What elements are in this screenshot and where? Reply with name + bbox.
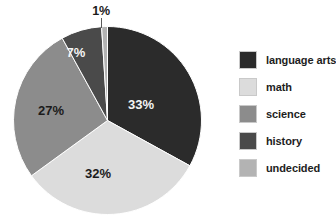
pie-slice-value-math: 32% bbox=[85, 166, 111, 181]
legend-item-history[interactable]: history bbox=[239, 127, 334, 154]
legend-swatch-language-arts bbox=[239, 51, 257, 69]
legend-swatch-math bbox=[239, 78, 257, 96]
pie-chart-svg: 33%32%27%7% bbox=[10, 23, 205, 218]
legend-label-math: math bbox=[266, 81, 292, 93]
pie-slice-group bbox=[14, 27, 202, 215]
legend-item-science[interactable]: science bbox=[239, 100, 334, 127]
slice-callout-leader-line bbox=[101, 18, 102, 28]
legend-swatch-undecided bbox=[239, 159, 257, 177]
slice-callout-undecided: 1% bbox=[78, 4, 124, 18]
legend-item-language-arts[interactable]: language arts bbox=[239, 46, 334, 73]
pie-slice-value-language-arts: 33% bbox=[128, 97, 154, 112]
legend-swatch-history bbox=[239, 132, 257, 150]
legend-label-undecided: undecided bbox=[266, 162, 320, 174]
legend-item-undecided[interactable]: undecided bbox=[239, 154, 334, 181]
pie-chart-plot-area: 33%32%27%7% bbox=[10, 23, 205, 218]
pie-slice-value-history: 7% bbox=[67, 45, 86, 60]
legend-item-math[interactable]: math bbox=[239, 73, 334, 100]
legend-swatch-science bbox=[239, 105, 257, 123]
legend-label-history: history bbox=[266, 135, 302, 147]
pie-slice-value-science: 27% bbox=[38, 103, 64, 118]
legend-label-language-arts: language arts bbox=[266, 54, 336, 66]
chart-legend: language artsmathsciencehistoryundecided bbox=[239, 46, 334, 181]
legend-label-science: science bbox=[266, 108, 306, 120]
